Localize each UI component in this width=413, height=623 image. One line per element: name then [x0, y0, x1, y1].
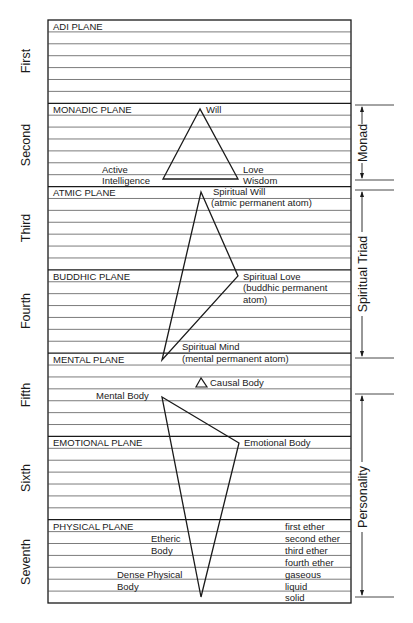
plane-number-seventh: Seventh	[19, 539, 33, 585]
plane-number-labels: First Second Third Fourth Fifth Sixth Se…	[19, 48, 33, 585]
label-mental-body: Mental Body	[96, 390, 149, 401]
label-emotional-body: Emotional Body	[244, 437, 311, 448]
label-buddhic-atom-2: atom)	[243, 294, 267, 305]
plane-number-fourth: Fourth	[19, 293, 33, 329]
subplane-second-ether: second ether	[285, 533, 340, 544]
plane-number-first: First	[19, 48, 33, 73]
plane-number-third: Third	[19, 214, 33, 243]
plane-name-adi: ADI PLANE	[53, 21, 103, 32]
monad-triangle: Will Active Intelligence Love Wisdom	[102, 104, 277, 186]
plane-name-physical: PHYSICAL PLANE	[53, 521, 133, 532]
label-etheric: Etheric	[151, 533, 181, 544]
label-spiritual-triad: Spiritual Triad	[356, 236, 370, 312]
plane-name-emotional: EMOTIONAL PLANE	[53, 437, 142, 448]
plane-number-fifth: Fifth	[19, 383, 33, 407]
label-spiritual-mind: Spiritual Mind	[182, 341, 240, 352]
bracket-personality: Personality	[355, 394, 394, 597]
label-etheric-body: Body	[151, 545, 173, 556]
subplane-first-ether: first ether	[285, 521, 325, 532]
label-spiritual-will: Spiritual Will	[213, 186, 265, 197]
label-buddhic-atom-1: (buddhic permanent	[243, 282, 328, 293]
label-will: Will	[206, 104, 221, 115]
causal-body: Causal Body	[196, 377, 264, 388]
label-causal-body: Causal Body	[210, 377, 264, 388]
label-mental-atom: (mental permanent atom)	[182, 353, 289, 364]
physical-subplane-labels: first ether second ether third ether fou…	[285, 521, 340, 603]
label-monad: Monad	[356, 124, 370, 162]
subplane-solid: solid	[285, 592, 305, 603]
plane-number-sixth: Sixth	[19, 464, 33, 492]
label-active: Active	[102, 164, 128, 175]
label-spiritual-love: Spiritual Love	[243, 271, 301, 282]
label-atmic-atom: (atmic permanent atom)	[211, 197, 312, 208]
label-personality: Personality	[356, 465, 370, 528]
personality-triangle: Mental Body Emotional Body Etheric Body …	[96, 390, 311, 597]
plane-name-buddhic: BUDDHIC PLANE	[53, 271, 130, 282]
label-intelligence: Intelligence	[102, 175, 150, 186]
label-dense-body: Body	[117, 581, 139, 592]
label-dense-physical: Dense Physical	[117, 569, 182, 580]
bracket-monad: Monad	[355, 105, 394, 180]
plane-name-atmic: ATMIC PLANE	[53, 187, 116, 198]
subplane-liquid: liquid	[285, 581, 307, 592]
label-wisdom: Wisdom	[243, 175, 277, 186]
plane-number-second: Second	[19, 124, 33, 166]
triad-triangle: Spiritual Will (atmic permanent atom) Sp…	[162, 186, 328, 364]
plane-name-mental: MENTAL PLANE	[53, 354, 124, 365]
subplane-gaseous: gaseous	[285, 569, 321, 580]
plane-name-labels: ADI PLANE MONADIC PLANE ATMIC PLANE BUDD…	[53, 21, 142, 532]
subplane-third-ether: third ether	[285, 545, 328, 556]
planes-diagram: First Second Third Fourth Fifth Sixth Se…	[0, 0, 413, 623]
label-love: Love	[243, 164, 264, 175]
bracket-spiritual-triad: Spiritual Triad	[355, 190, 394, 358]
plane-name-monadic: MONADIC PLANE	[53, 104, 132, 115]
subplane-fourth-ether: fourth ether	[285, 557, 334, 568]
